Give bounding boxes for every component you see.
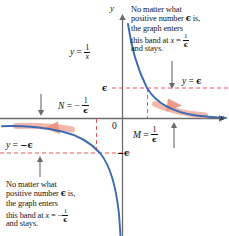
pointer-arrow-to-x-axis-left	[38, 94, 44, 116]
negative-epsilon-symbol: −ϵ	[117, 148, 129, 158]
top-annotation-line-4: this band at x = 1ϵ	[131, 33, 229, 44]
top-line2-c: is,	[191, 14, 200, 23]
M-numerator: 1	[151, 126, 158, 134]
y-axis-label: y	[110, 3, 114, 13]
pointer-arrow-into-upper-band	[169, 61, 175, 89]
bottom-line4-denominator: ϵ	[62, 215, 68, 223]
pointer-arrow-to-x-axis-right	[171, 122, 177, 148]
top-line4-fraction: 1ϵ	[183, 33, 189, 48]
N-marker-label: N = − 1 ϵ	[58, 97, 89, 114]
bottom-line4-fraction: 1ϵ	[62, 208, 68, 223]
N-minus-sign: −	[74, 101, 79, 111]
bottom-line4-equals: = −	[49, 211, 62, 220]
negative-epsilon-tick-label: −ϵ	[117, 148, 129, 158]
lower-band-label: y = −ϵ	[6, 140, 33, 150]
top-annotation-line-3: the graph enters	[131, 24, 229, 33]
M-marker-label: M = 1 ϵ	[133, 126, 158, 143]
top-annotation: No matter what positive number ϵ is, the…	[131, 5, 229, 53]
curve-equation-label: y = 1 x	[70, 44, 90, 61]
top-line4-equals: =	[174, 36, 183, 45]
upper-band-label: y = ϵ	[182, 76, 202, 86]
curve-eq-y: y	[70, 47, 74, 57]
N-equals: =	[67, 101, 72, 111]
bottom-annotation: No matter what positive number ϵ is, the…	[6, 180, 116, 228]
curve-eq-equals: =	[77, 47, 82, 57]
bottom-line2-a: positive number	[6, 189, 61, 198]
N-denominator: ϵ	[82, 105, 89, 114]
epsilon-tick-label: ϵ	[102, 83, 107, 93]
N-fraction: 1 ϵ	[82, 97, 89, 114]
curve-eq-numerator: 1	[84, 44, 90, 52]
epsilon-symbol: ϵ	[102, 83, 107, 93]
top-annotation-line-2: positive number ϵ is,	[131, 14, 229, 23]
lower-band-equals: =	[13, 140, 18, 150]
bottom-line2-c: is,	[66, 189, 75, 198]
pointer-arrow-into-lower-band	[37, 156, 43, 177]
x-axis-label: x	[220, 112, 224, 122]
origin-label: 0	[112, 121, 117, 131]
lower-band-y: y	[6, 140, 10, 150]
bottom-annotation-line-2: positive number ϵ is,	[6, 189, 116, 198]
M-equals: =	[143, 130, 148, 140]
top-line2-a: positive number	[131, 14, 186, 23]
M-symbol: M	[133, 130, 141, 140]
lower-band-epsilon: −ϵ	[20, 140, 32, 150]
top-line4-numerator: 1	[183, 33, 189, 40]
N-numerator: 1	[82, 97, 89, 105]
top-line4-denominator: ϵ	[183, 40, 189, 48]
M-fraction: 1 ϵ	[151, 126, 158, 143]
M-denominator: ϵ	[151, 134, 158, 143]
curve-eq-fraction: 1 x	[84, 44, 90, 61]
upper-band-epsilon: ϵ	[196, 76, 201, 86]
upper-band-y: y	[182, 76, 186, 86]
top-annotation-line-1: No matter what	[131, 5, 229, 14]
y-axis	[119, 14, 125, 236]
N-symbol: N	[58, 101, 64, 111]
curve-eq-denominator: x	[84, 52, 90, 61]
upper-band-equals: =	[189, 76, 194, 86]
bottom-annotation-line-4: this band at x = −1ϵ	[6, 208, 116, 219]
bottom-annotation-line-3: the graph enters	[6, 199, 116, 208]
bottom-line4-numerator: 1	[62, 208, 68, 215]
